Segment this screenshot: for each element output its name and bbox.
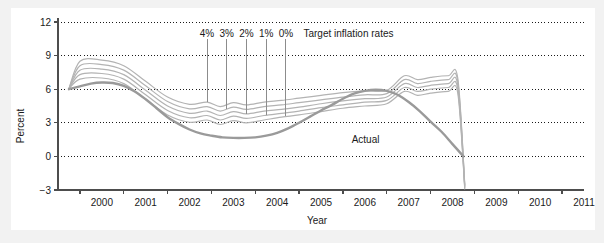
fan-series-group xyxy=(69,59,465,189)
y-tick-label: 9 xyxy=(45,50,51,61)
y-tick-label: 3 xyxy=(45,117,51,128)
x-tick-label: 2008 xyxy=(441,197,464,208)
y-tick-label: 0 xyxy=(45,151,51,162)
x-tick-labels: 2000200120022003200420052006200720082009… xyxy=(91,197,595,208)
x-tick-label: 2001 xyxy=(135,197,158,208)
leader-lines xyxy=(207,39,286,116)
x-tick-label: 2011 xyxy=(573,197,595,208)
y-tick-label: 12 xyxy=(40,17,52,28)
chart-figure: −3036912 2000200120022003200420052006200… xyxy=(0,0,604,243)
gridlines xyxy=(58,22,584,156)
target-path-line xyxy=(69,78,465,189)
x-tick-label: 2003 xyxy=(222,197,245,208)
x-tick-label: 2009 xyxy=(485,197,508,208)
y-tick-label: −3 xyxy=(40,185,52,196)
x-tick-label: 2010 xyxy=(529,197,552,208)
target-rate-label: 4% xyxy=(200,28,215,39)
x-tick-label: 2005 xyxy=(310,197,333,208)
x-tick-label: 2002 xyxy=(178,197,201,208)
target-rate-label: 2% xyxy=(239,28,254,39)
target-rate-label: 3% xyxy=(220,28,235,39)
chart-panel: −3036912 2000200120022003200420052006200… xyxy=(11,8,595,230)
target-rate-label: 1% xyxy=(259,28,274,39)
x-tick-label: 2000 xyxy=(91,197,114,208)
y-axis-title: Percent xyxy=(15,109,26,144)
x-tick-label: 2007 xyxy=(398,197,421,208)
target-rate-label: Target inflation rates xyxy=(303,28,393,39)
x-tick-label: 2004 xyxy=(266,197,289,208)
x-axis-title: Year xyxy=(307,215,328,226)
target-path-line xyxy=(69,73,465,188)
y-tick-label: 6 xyxy=(45,84,51,95)
target-rate-label: 0% xyxy=(279,28,294,39)
y-tick-labels: −3036912 xyxy=(40,17,52,196)
actual-series-label: Actual xyxy=(352,134,380,145)
axes xyxy=(54,18,584,194)
annotations: 4%3%2%1%0%Target inflation ratesActual xyxy=(200,28,394,145)
x-tick-label: 2006 xyxy=(354,197,377,208)
fan-chart-svg: −3036912 2000200120022003200420052006200… xyxy=(11,8,595,230)
